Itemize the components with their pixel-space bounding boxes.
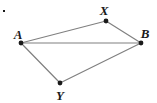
segment-ay — [21, 43, 60, 83]
figure-canvas — [0, 0, 157, 103]
segments-group — [21, 21, 141, 83]
vertex-dot-x — [104, 19, 109, 24]
vertex-label-x: X — [100, 4, 109, 17]
vertex-label-b: B — [141, 27, 150, 40]
segment-xb — [106, 21, 141, 43]
vertex-label-y: Y — [56, 89, 64, 102]
vertices-group — [19, 19, 144, 86]
segment-ax — [21, 21, 106, 43]
geometry-figure: AXBY — [0, 0, 157, 103]
segment-yb — [60, 43, 141, 83]
artifacts-group — [3, 10, 5, 12]
vertex-dot-b — [139, 41, 144, 46]
vertex-label-a: A — [14, 28, 23, 41]
vertex-dot-y — [58, 81, 63, 86]
artifact-speck — [3, 10, 5, 12]
